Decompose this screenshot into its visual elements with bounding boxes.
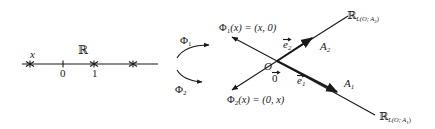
real-number-line: x ℝ 0 1 <box>22 43 158 79</box>
diagram-canvas: x ℝ 0 1 Φ1 Φ2 Φ1(x) = (x, 0) Φ2(x) = (0,… <box>0 0 435 129</box>
line2-label: ℝL(O; A2) <box>347 9 379 24</box>
tick-zero-label: 0 <box>60 67 66 79</box>
line-L-O-A1-negative-arrow <box>232 37 277 61</box>
phi1-arrow <box>177 45 209 58</box>
point-x-label: x <box>29 48 35 60</box>
vector-e1 <box>277 61 337 92</box>
origin-label: O <box>264 60 272 72</box>
zero-vector-label: 0 <box>272 71 280 84</box>
phi2-label: Φ2 <box>175 83 187 97</box>
A1-label: A1 <box>343 77 354 91</box>
phi1-label: Φ1 <box>180 34 192 48</box>
e1-label: e1 <box>297 74 305 88</box>
phi2-arrow <box>177 70 202 82</box>
map-arrows: Φ1 Φ2 <box>175 34 209 97</box>
set-r-label: ℝ <box>78 43 89 57</box>
tick-one-label: 1 <box>92 67 98 79</box>
phi2-formula: Φ2(x) = (0, x) <box>227 94 285 107</box>
e2-label: e2 <box>283 38 292 52</box>
A2-label: A2 <box>319 40 331 54</box>
line1-label: ℝL(O; A1) <box>379 110 411 125</box>
phi1-formula: Φ1(x) = (x, 0) <box>219 22 277 35</box>
